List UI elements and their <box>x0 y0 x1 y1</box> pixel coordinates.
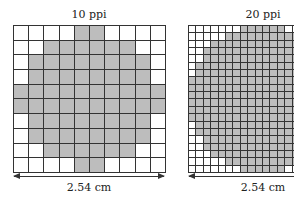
pixel-cell <box>226 63 232 69</box>
pixel-cell <box>105 129 119 143</box>
pixel-cell <box>278 129 284 135</box>
pixel-cell <box>219 33 225 39</box>
pixel-cell <box>211 26 217 32</box>
pixel-cell <box>204 41 210 47</box>
pixel-cell <box>248 48 254 54</box>
pixel-cell <box>241 55 247 61</box>
pixel-cell <box>233 92 239 98</box>
pixel-cell <box>285 166 291 172</box>
pixel-cell <box>105 158 119 172</box>
pixel-cell <box>226 107 232 113</box>
pixel-cell <box>256 70 262 76</box>
pixel-cell <box>211 158 217 164</box>
pixel-cell <box>263 33 269 39</box>
pixel-cell <box>233 107 239 113</box>
pixel-cell <box>196 158 202 164</box>
pixel-cell <box>189 33 195 39</box>
pixel-cell <box>189 107 195 113</box>
pixel-cell <box>14 85 28 99</box>
pixel-cell <box>278 114 284 120</box>
pixel-cell <box>120 41 134 55</box>
pixel-cell <box>293 41 294 47</box>
pixel-cell <box>120 129 134 143</box>
pixel-cell <box>14 114 28 128</box>
pixel-cell <box>241 92 247 98</box>
pixel-cell <box>263 151 269 157</box>
pixel-cell <box>263 136 269 142</box>
pixel-cell <box>211 122 217 128</box>
pixel-cell <box>248 144 254 150</box>
pixel-cell <box>285 151 291 157</box>
pixel-cell <box>226 92 232 98</box>
pixel-cell <box>233 151 239 157</box>
pixel-cell <box>14 26 28 40</box>
pixel-cell <box>233 122 239 128</box>
pixel-cell <box>196 136 202 142</box>
pixel-cell <box>151 144 165 158</box>
pixel-cell <box>241 41 247 47</box>
pixel-cell <box>60 26 74 40</box>
pixel-cell <box>44 41 58 55</box>
pixel-cell <box>196 55 202 61</box>
pixel-cell <box>270 144 276 150</box>
pixel-cell <box>263 41 269 47</box>
pixel-cell <box>256 136 262 142</box>
pixel-cell <box>278 55 284 61</box>
pixel-cell <box>219 85 225 91</box>
pixel-cell <box>204 48 210 54</box>
pixel-cell <box>226 114 232 120</box>
pixel-cell <box>29 41 43 55</box>
pixel-cell <box>105 26 119 40</box>
pixel-cell <box>211 136 217 142</box>
pixel-cell <box>189 151 195 157</box>
pixel-cell <box>248 92 254 98</box>
pixel-cell <box>285 144 291 150</box>
pixel-cell <box>44 99 58 113</box>
title-20ppi: 20 ppi <box>188 8 294 21</box>
pixel-cell <box>293 129 294 135</box>
pixel-cell <box>211 166 217 172</box>
pixel-cell <box>189 144 195 150</box>
pixel-cell <box>248 151 254 157</box>
pixel-cell <box>120 99 134 113</box>
pixel-cell <box>285 26 291 32</box>
pixel-cell <box>293 158 294 164</box>
pixel-cell <box>219 114 225 120</box>
pixel-cell <box>136 129 150 143</box>
arrowhead-left-icon <box>13 173 20 179</box>
pixel-cell <box>270 55 276 61</box>
pixel-cell <box>204 70 210 76</box>
pixel-cell <box>75 158 89 172</box>
pixel-cell <box>226 144 232 150</box>
pixel-cell <box>219 70 225 76</box>
dimension-arrow-left <box>14 176 164 177</box>
pixel-cell <box>278 70 284 76</box>
pixel-cell <box>233 99 239 105</box>
pixel-cell <box>219 129 225 135</box>
pixel-cell <box>211 114 217 120</box>
pixel-cell <box>278 92 284 98</box>
pixel-cell <box>285 92 291 98</box>
pixel-cell <box>136 99 150 113</box>
pixel-cell <box>278 48 284 54</box>
pixel-cell <box>233 85 239 91</box>
pixel-cell <box>256 151 262 157</box>
pixel-cell <box>196 99 202 105</box>
pixel-cell <box>211 129 217 135</box>
pixel-cell <box>270 41 276 47</box>
pixel-cell <box>196 114 202 120</box>
pixel-cell <box>278 41 284 47</box>
pixel-cell <box>60 99 74 113</box>
pixel-cell <box>248 63 254 69</box>
pixel-cell <box>285 33 291 39</box>
pixel-cell <box>241 33 247 39</box>
pixel-cell <box>226 99 232 105</box>
pixel-cell <box>151 129 165 143</box>
pixel-cell <box>29 99 43 113</box>
pixel-cell <box>105 114 119 128</box>
pixel-cell <box>248 166 254 172</box>
pixel-cell <box>44 114 58 128</box>
pixel-cell <box>196 92 202 98</box>
pixel-cell <box>278 158 284 164</box>
pixel-cell <box>151 26 165 40</box>
